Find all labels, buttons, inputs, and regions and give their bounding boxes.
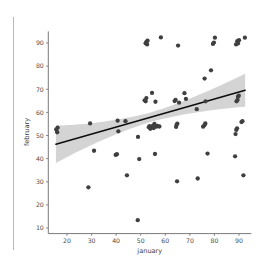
data-point xyxy=(243,36,247,40)
x-tick-label: 70 xyxy=(186,237,194,244)
y-tick-label: 80 xyxy=(36,62,44,69)
data-point xyxy=(202,76,206,80)
data-point xyxy=(136,135,140,139)
data-point xyxy=(125,173,129,177)
data-point xyxy=(196,176,200,180)
data-point xyxy=(157,124,161,128)
data-point xyxy=(241,173,245,177)
y-tick-label: 60 xyxy=(36,109,44,116)
y-tick-label: 10 xyxy=(36,224,44,231)
data-point xyxy=(240,119,244,123)
data-point xyxy=(116,129,120,133)
data-point xyxy=(182,91,186,95)
scatter-plot: 1020304050607080902030405060708090januar… xyxy=(0,0,264,267)
data-point xyxy=(145,42,149,46)
data-point xyxy=(233,154,237,158)
data-point xyxy=(145,39,149,43)
data-point xyxy=(233,132,237,136)
data-point xyxy=(195,107,199,111)
data-point xyxy=(213,36,217,40)
y-tick-label: 70 xyxy=(36,86,44,93)
x-tick-label: 40 xyxy=(112,237,120,244)
data-point xyxy=(150,91,154,95)
y-tick-label: 40 xyxy=(36,155,44,162)
data-point xyxy=(92,149,96,153)
data-point xyxy=(203,121,207,125)
y-tick-label: 20 xyxy=(36,201,44,208)
data-point xyxy=(136,218,140,222)
data-point xyxy=(86,185,90,189)
x-tick-label: 80 xyxy=(210,237,218,244)
data-point xyxy=(235,126,239,130)
data-point xyxy=(175,179,179,183)
data-point xyxy=(212,40,216,44)
data-point xyxy=(175,122,179,126)
data-point xyxy=(184,97,188,101)
data-point xyxy=(144,96,148,100)
data-point xyxy=(55,130,59,134)
y-axis-title: february xyxy=(23,118,31,146)
data-point xyxy=(115,119,119,123)
data-point xyxy=(56,125,60,129)
data-point xyxy=(153,100,157,104)
y-tick-label: 30 xyxy=(36,178,44,185)
x-axis-title: january xyxy=(136,247,162,255)
data-point xyxy=(237,38,241,42)
data-point xyxy=(203,99,207,103)
data-point xyxy=(237,94,241,98)
y-tick-label: 90 xyxy=(36,39,44,46)
data-point xyxy=(205,151,209,155)
data-point xyxy=(123,119,127,123)
data-point xyxy=(137,157,141,161)
data-point xyxy=(176,43,180,47)
data-point xyxy=(177,101,181,105)
data-point xyxy=(173,98,177,102)
y-tick-label: 50 xyxy=(36,132,44,139)
x-tick-label: 60 xyxy=(161,237,169,244)
data-point xyxy=(88,121,92,125)
data-point xyxy=(115,152,119,156)
x-tick-label: 90 xyxy=(235,237,243,244)
x-tick-label: 50 xyxy=(137,237,145,244)
chart-screenshot: 1020304050607080902030405060708090januar… xyxy=(0,0,264,267)
data-point xyxy=(159,35,163,39)
x-tick-label: 20 xyxy=(63,237,71,244)
data-point xyxy=(209,68,213,72)
x-tick-label: 30 xyxy=(88,237,96,244)
data-point xyxy=(153,152,157,156)
